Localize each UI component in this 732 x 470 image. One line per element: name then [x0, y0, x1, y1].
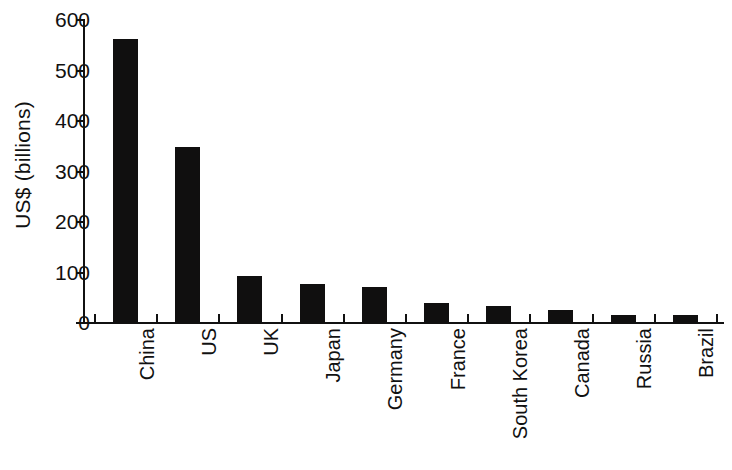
x-tick-mark: [529, 314, 531, 323]
bar-china: [113, 39, 138, 323]
plot-area: [0, 0, 732, 340]
x-tick-mark: [281, 314, 283, 323]
bar-chart: US$ (billions) 0100200300400500600 China…: [0, 0, 732, 470]
bar-canada: [548, 310, 573, 323]
x-tick-mark: [467, 314, 469, 323]
x-axis-label-us: US: [198, 328, 220, 468]
x-axis-labels: ChinaUSUKJapanGermanyFranceSouth KoreaCa…: [0, 328, 732, 470]
bar-japan: [300, 284, 325, 323]
bar-france: [424, 303, 449, 323]
x-axis-label-brazil: Brazil: [695, 328, 717, 468]
x-axis-label-china: China: [136, 328, 158, 468]
x-tick-mark: [156, 314, 158, 323]
x-tick-mark: [654, 314, 656, 323]
x-axis-label-germany: Germany: [384, 328, 406, 468]
x-axis-label-uk: UK: [260, 328, 282, 468]
x-tick-mark: [343, 314, 345, 323]
bar-uk: [237, 276, 262, 323]
x-tick-mark: [405, 314, 407, 323]
x-tick-mark: [94, 314, 96, 323]
bar-brazil: [673, 315, 698, 323]
x-tick-mark: [218, 314, 220, 323]
bar-russia: [611, 315, 636, 323]
x-axis-label-south-korea: South Korea: [509, 328, 531, 468]
x-axis-label-canada: Canada: [571, 328, 593, 468]
x-tick-mark: [716, 314, 718, 323]
bar-south-korea: [486, 306, 511, 323]
x-axis-label-france: France: [447, 328, 469, 468]
bar-germany: [362, 287, 387, 323]
bars-layer: [0, 0, 732, 323]
x-axis-label-russia: Russia: [633, 328, 655, 468]
x-axis-label-japan: Japan: [322, 328, 344, 468]
bar-us: [175, 147, 200, 323]
x-tick-mark: [592, 314, 594, 323]
